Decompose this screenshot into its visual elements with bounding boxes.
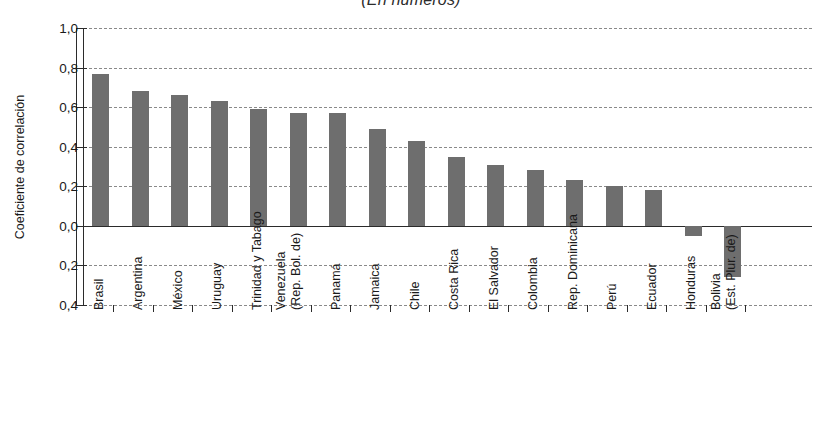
- bar: [211, 101, 228, 226]
- bar: [369, 129, 386, 226]
- bar: [527, 170, 544, 225]
- bar: [132, 91, 149, 226]
- bar: [290, 113, 307, 226]
- x-tick-label: Brasil: [92, 279, 107, 310]
- x-tick-label: Chile: [408, 282, 423, 311]
- y-tick-label: 0,4: [59, 139, 78, 154]
- x-tick-label: Panamá: [329, 263, 344, 310]
- gridline: [84, 147, 812, 148]
- bar: [645, 190, 662, 226]
- y-tick-label: 0,4: [59, 298, 78, 313]
- zero-baseline: [84, 226, 812, 227]
- y-tick-label: 0,8: [59, 60, 78, 75]
- x-tick-label: Rep. Dominicana: [566, 214, 581, 310]
- x-tick-label: Perú: [605, 284, 620, 310]
- x-tick-label: Bolivia(Est. Plur. de): [709, 234, 739, 310]
- chart-root: (En números) Coeficiente de correlación …: [0, 0, 822, 441]
- x-tick-label: Jamaica: [368, 263, 383, 310]
- bar: [250, 109, 267, 226]
- bar: [487, 165, 504, 226]
- x-tick-label: Ecuador: [645, 263, 660, 310]
- bar: [329, 113, 346, 226]
- y-tick-label: 1,0: [59, 21, 78, 36]
- x-tick-label: Honduras: [684, 256, 699, 310]
- x-tick-label: Argentina: [131, 256, 146, 310]
- y-axis-title-wrapper: Coeficiente de correlación: [10, 28, 30, 305]
- x-tick-label: Colombia: [526, 257, 541, 310]
- bar: [171, 95, 188, 226]
- y-tick-label: 0,2: [59, 179, 78, 194]
- y-tick-label: 0,2: [59, 258, 78, 273]
- gridline: [84, 107, 812, 108]
- x-axis-labels: BrasilArgentinaMéxicoUruguayTrinidad y T…: [84, 310, 812, 441]
- y-axis-line: [83, 28, 84, 305]
- x-tick-label: Costa Rica: [447, 249, 462, 310]
- gridline: [84, 28, 812, 29]
- chart-title: (En números): [0, 0, 822, 9]
- y-tick-label: 0,6: [59, 100, 78, 115]
- gridline: [84, 68, 812, 69]
- bar: [448, 157, 465, 226]
- x-tick-label: Uruguay: [210, 263, 225, 310]
- x-tick-label: Venezuela(Rep. Bol. de): [274, 233, 304, 310]
- bar: [685, 226, 702, 236]
- y-tick-label: 0,0: [59, 218, 78, 233]
- x-tick-label: México: [171, 270, 186, 310]
- x-tick-label: Trinidad y Tabago: [250, 211, 265, 310]
- bar: [408, 141, 425, 226]
- bar: [92, 74, 109, 226]
- bar: [606, 186, 623, 226]
- y-axis-title: Coeficiente de correlación: [13, 94, 27, 239]
- x-tick-label: El Salvador: [487, 246, 502, 310]
